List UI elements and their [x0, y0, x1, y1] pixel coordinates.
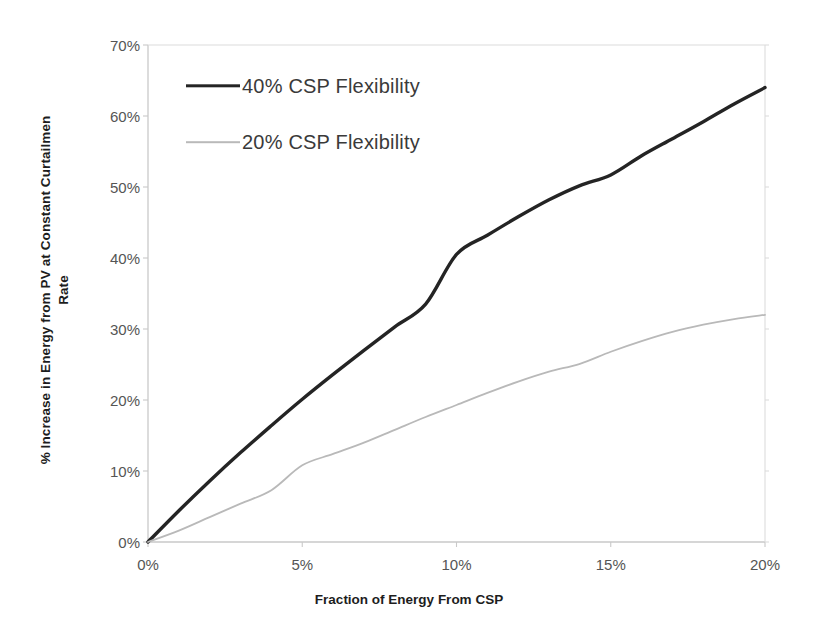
x-tick-label: 15% [596, 556, 626, 573]
chart-legend: 40% CSP Flexibility 20% CSP Flexibility [186, 68, 486, 160]
legend-line-swatch-icon [186, 135, 240, 149]
series-line-2 [148, 315, 765, 542]
x-tick-label: 0% [137, 556, 159, 573]
x-axis-tick-labels: 0%5%10%15%20% [0, 556, 818, 580]
chart-figure: % Increase in Energy from PV at Constant… [0, 0, 818, 640]
legend-item-20-csp-flexibility: 20% CSP Flexibility [186, 124, 486, 160]
legend-item-40-csp-flexibility: 40% CSP Flexibility [186, 68, 486, 104]
legend-label: 40% CSP Flexibility [240, 75, 420, 98]
x-tick-label: 20% [750, 556, 780, 573]
legend-label: 20% CSP Flexibility [240, 131, 420, 154]
x-tick-label: 5% [291, 556, 313, 573]
legend-line-swatch-icon [186, 79, 240, 93]
x-axis-title: Fraction of Energy From CSP [0, 592, 818, 607]
x-tick-label: 10% [441, 556, 471, 573]
